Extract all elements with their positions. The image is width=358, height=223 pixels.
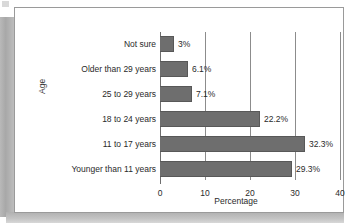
chart-screenshot: Age 3% 6.1% 7.1% 22.2% 32.3% 29.3% Not s… — [0, 0, 358, 223]
page-shadow-left — [0, 17, 14, 217]
page-shadow-bottom — [6, 212, 344, 223]
gridline-20 — [250, 32, 251, 180]
value-label-not-sure: 3% — [178, 36, 190, 52]
category-label-11-to-17: 11 to 17 years — [26, 136, 156, 152]
gridline-30 — [295, 32, 296, 180]
bar-older-than-29 — [160, 61, 188, 77]
category-label-18-to-24: 18 to 24 years — [26, 111, 156, 127]
page-corner-shadow — [2, 1, 9, 7]
x-axis-label: Percentage — [146, 196, 326, 206]
gridline-40 — [340, 32, 341, 180]
value-label-18-to-24: 22.2% — [264, 111, 288, 127]
value-label-25-to-29: 7.1% — [196, 86, 215, 102]
bar-younger-than-11 — [160, 161, 292, 177]
gridline-10 — [205, 32, 206, 180]
value-label-older-than-29: 6.1% — [192, 61, 211, 77]
category-label-older-than-29: Older than 29 years — [26, 61, 156, 77]
bar-11-to-17 — [160, 136, 305, 152]
plot-area: 3% 6.1% 7.1% 22.2% 32.3% 29.3% Not sure … — [160, 32, 340, 180]
category-label-younger-than-11: Younger than 11 years — [26, 161, 156, 177]
value-label-11-to-17: 32.3% — [309, 136, 333, 152]
category-label-25-to-29: 25 to 29 years — [26, 86, 156, 102]
x-tick-40: 40 — [335, 188, 344, 198]
bar-25-to-29 — [160, 86, 192, 102]
category-label-not-sure: Not sure — [26, 36, 156, 52]
bar-18-to-24 — [160, 111, 260, 127]
value-label-younger-than-11: 29.3% — [296, 161, 320, 177]
chart-panel: Age 3% 6.1% 7.1% 22.2% 32.3% 29.3% Not s… — [14, 7, 344, 213]
bar-not-sure — [160, 36, 174, 52]
